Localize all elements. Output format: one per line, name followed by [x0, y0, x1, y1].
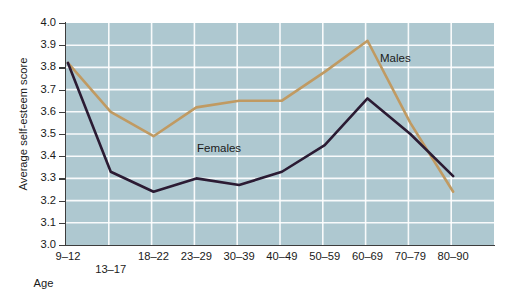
y-tick-label: 3.7 [0, 84, 56, 95]
series-canvas [66, 23, 494, 245]
y-tick-label: 3.4 [0, 150, 56, 161]
x-axis-title-text: Age [34, 277, 54, 289]
y-tick-label: 3.5 [0, 128, 56, 139]
x-tick-label: 80–90 [423, 251, 483, 262]
plot-area [66, 23, 494, 245]
y-tick-label: 3.0 [0, 239, 56, 250]
x-tick-label: 9–12 [38, 251, 98, 262]
x-axis-title: Age [0, 277, 517, 289]
y-tick-label: 3.8 [0, 61, 56, 72]
y-tick-label: 3.3 [0, 172, 56, 183]
series-annotation-males: Males [380, 52, 411, 64]
series-annotation-females: Females [197, 142, 241, 154]
x-tick-label: 13–17 [81, 264, 141, 275]
series-line-females [68, 63, 453, 192]
x-axis-line [65, 245, 495, 246]
y-tick-label: 3.9 [0, 39, 56, 50]
self-esteem-by-age-chart: Average self-esteem score 4.03.93.83.73.… [0, 0, 517, 297]
y-tick-label: 4.0 [0, 17, 56, 28]
y-tick-label: 3.2 [0, 195, 56, 206]
y-tick-label: 3.1 [0, 217, 56, 228]
y-tick-label: 3.6 [0, 106, 56, 117]
